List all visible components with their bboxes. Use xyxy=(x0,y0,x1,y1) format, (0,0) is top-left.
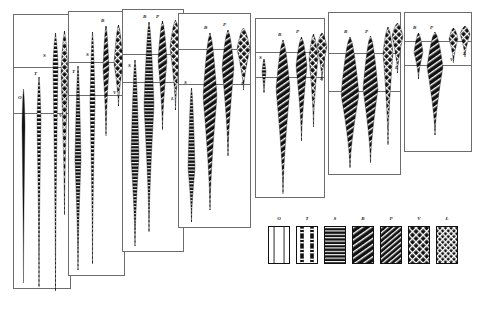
spindle-shape xyxy=(37,77,41,287)
spindle-b[interactable] xyxy=(203,33,217,210)
spindle-p[interactable] xyxy=(222,30,234,156)
spindle-shape xyxy=(414,33,423,79)
spindle-label-s: S xyxy=(43,53,46,58)
spindle-label-l: L xyxy=(171,96,174,101)
spindle-s[interactable] xyxy=(262,59,266,93)
spindle-shape xyxy=(75,66,81,270)
spindle-s[interactable] xyxy=(90,32,95,264)
spindle-label-v: V xyxy=(113,90,116,95)
spindle-label-p: P xyxy=(296,29,299,34)
spindle-label-v: V xyxy=(385,83,388,88)
spindle-b[interactable] xyxy=(276,40,290,194)
legend-swatch-l[interactable] xyxy=(436,226,458,264)
legend-swatch-v[interactable] xyxy=(408,226,430,264)
spindle-shape xyxy=(317,33,327,81)
legend-swatch-fill xyxy=(353,227,373,263)
spindle-label-v: V xyxy=(310,67,313,72)
legend-swatch-s[interactable] xyxy=(324,226,346,264)
spindle-label-s: S xyxy=(86,52,89,57)
spindle-s[interactable] xyxy=(131,60,139,246)
legend-label-p: P xyxy=(380,216,402,221)
legend-label-o: O xyxy=(268,216,290,221)
spindle-label-t: T xyxy=(34,71,37,76)
spindle-label-l: L xyxy=(241,81,244,86)
spindle-b[interactable] xyxy=(103,26,109,136)
panel-5[interactable]: SBPVL xyxy=(255,18,325,198)
spindle-shape xyxy=(61,31,68,215)
legend-label-l: L xyxy=(436,216,458,221)
spindle-label-p: P xyxy=(223,22,226,27)
spindle-l[interactable] xyxy=(317,33,327,81)
spindle-shape xyxy=(188,88,195,222)
spindle-label-p: P xyxy=(430,25,433,30)
spindle-label-o: O xyxy=(18,95,22,100)
spindle-shape xyxy=(262,59,266,93)
spindle-shape xyxy=(203,33,217,210)
panel-7[interactable]: BPVL xyxy=(404,12,472,152)
spindle-shape xyxy=(363,36,378,163)
spindle-shape xyxy=(144,22,154,232)
spindle-shape xyxy=(276,40,290,194)
panel-3[interactable]: SBPL xyxy=(122,9,184,252)
spindle-shape xyxy=(103,26,109,136)
spindle-shape xyxy=(427,32,443,135)
spindle-b[interactable] xyxy=(414,33,423,79)
spindle-p[interactable] xyxy=(363,36,378,163)
spindle-label-p: P xyxy=(156,14,159,19)
legend-swatch-o[interactable] xyxy=(268,226,290,264)
spindle-shape xyxy=(158,21,167,130)
spindle-o[interactable] xyxy=(22,89,25,283)
panel-2[interactable]: TSBV xyxy=(68,11,125,276)
spindle-p[interactable] xyxy=(427,32,443,135)
legend-label-s: S xyxy=(324,216,346,221)
spindle-label-s: S xyxy=(128,63,131,68)
spindle-shape xyxy=(222,30,234,156)
spindle-label-b: B xyxy=(278,32,281,37)
panel-1[interactable]: OTSV xyxy=(13,14,71,289)
spindle-label-s: S xyxy=(259,55,262,60)
spindle-label-t: T xyxy=(72,69,75,74)
spindle-label-p: P xyxy=(365,29,368,34)
spindle-v[interactable] xyxy=(61,31,68,215)
pattern-legend: OTSBPVL xyxy=(268,216,464,268)
spindle-label-v: V xyxy=(450,57,453,62)
legend-swatch-fill xyxy=(381,227,401,263)
spindle-b[interactable] xyxy=(144,22,154,232)
spindle-p[interactable] xyxy=(158,21,167,130)
legend-swatch-fill xyxy=(325,227,345,263)
spindle-b[interactable] xyxy=(341,37,359,168)
legend-swatch-fill xyxy=(297,227,317,263)
legend-swatch-t[interactable] xyxy=(296,226,318,264)
spindle-shape xyxy=(341,37,359,168)
spindle-label-b: B xyxy=(143,14,146,19)
legend-swatch-p[interactable] xyxy=(380,226,402,264)
legend-swatch-fill xyxy=(437,227,457,263)
spindle-p[interactable] xyxy=(296,37,307,141)
spindle-label-v: V xyxy=(59,113,62,118)
legend-label-t: T xyxy=(296,216,318,221)
spindle-label-l: L xyxy=(463,51,466,56)
legend-label-b: B xyxy=(352,216,374,221)
panel-6[interactable]: BPVL xyxy=(328,12,401,175)
spindle-label-l: L xyxy=(395,65,398,70)
spindle-s[interactable] xyxy=(53,33,58,291)
spindle-shape xyxy=(131,60,139,246)
spindle-shape xyxy=(53,33,58,291)
spindle-label-b: B xyxy=(344,29,347,34)
legend-swatch-b[interactable] xyxy=(352,226,374,264)
spindle-t[interactable] xyxy=(75,66,81,270)
spindle-s[interactable] xyxy=(188,88,195,222)
spindle-shape xyxy=(296,37,307,141)
figure-canvas: OTSVTSBVSBPLSBPLSBPVLBPVLBPVLOTSBPVL xyxy=(0,0,483,314)
spindle-label-b: B xyxy=(101,18,104,23)
spindle-shape xyxy=(22,89,25,283)
spindle-shape xyxy=(90,32,95,264)
spindle-label-l: L xyxy=(320,76,323,81)
spindle-label-b: B xyxy=(413,25,416,30)
legend-label-v: V xyxy=(408,216,430,221)
legend-swatch-fill xyxy=(409,227,429,263)
spindle-label-s: S xyxy=(184,80,187,85)
panel-4[interactable]: SBPL xyxy=(178,13,251,228)
spindle-t[interactable] xyxy=(37,77,41,287)
spindle-label-b: B xyxy=(204,25,207,30)
